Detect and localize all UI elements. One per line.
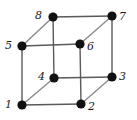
vertex-4	[49, 73, 58, 82]
vertex-8	[48, 12, 57, 21]
vertex-label-2: 2	[88, 101, 95, 112]
vertex-2	[76, 99, 85, 108]
edge-1-2	[22, 104, 81, 105]
vertex-5	[17, 41, 26, 50]
edge-2-6	[80, 44, 81, 104]
vertex-3	[107, 72, 116, 81]
vertex-label-7: 7	[119, 11, 126, 22]
cube-graph-canvas	[0, 0, 137, 120]
edge-4-8	[53, 17, 54, 78]
edge-6-7	[80, 16, 112, 44]
vertex-1	[17, 100, 26, 109]
cube-graph-figure: 12345678	[0, 0, 137, 120]
vertex-label-8: 8	[35, 10, 42, 21]
vertex-label-1: 1	[5, 99, 12, 110]
vertex-layer	[17, 11, 116, 109]
edge-2-3	[81, 77, 112, 104]
vertex-label-3: 3	[119, 71, 126, 82]
vertex-7	[107, 11, 116, 20]
vertex-label-5: 5	[5, 40, 12, 51]
edge-3-4	[54, 77, 112, 78]
edge-5-6	[22, 44, 80, 46]
edge-7-8	[53, 16, 112, 17]
edge-layer	[22, 16, 112, 105]
vertex-label-4: 4	[38, 71, 45, 82]
vertex-label-6: 6	[87, 41, 94, 52]
vertex-6	[75, 39, 84, 48]
